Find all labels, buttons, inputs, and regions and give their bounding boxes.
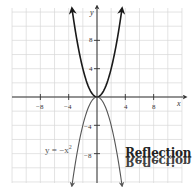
x-tick-label: −8	[36, 103, 44, 111]
equation-label: y = −x2	[45, 144, 72, 155]
y-axis-label: y	[89, 8, 94, 17]
x-tick-label: −4	[64, 103, 72, 111]
reflection-chart: x y −8 −4 4 8 8 4 −4 −8 y = −x2 Reflecti…	[0, 0, 192, 191]
x-axis-label: x	[176, 99, 181, 108]
svg-text:y = −x2: y = −x2	[45, 144, 72, 155]
x-tick-label: 4	[124, 103, 128, 111]
x-tick-label: 8	[152, 103, 156, 111]
y-tick-label: −8	[84, 152, 92, 160]
x-tick-labels: −8 −4 4 8	[36, 103, 156, 111]
y-tick-label: 4	[89, 65, 93, 73]
stamp-text-mirrored: Reflection	[125, 154, 192, 168]
reflection-stamp: Reflection Reflection	[125, 146, 192, 168]
y-tick-label: 8	[89, 36, 93, 44]
y-tick-label: −4	[84, 123, 92, 131]
